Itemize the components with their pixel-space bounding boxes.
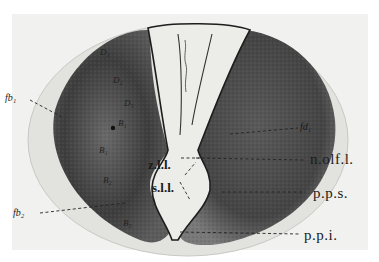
label-D3: D₃	[124, 99, 134, 108]
label-fb2: fb₂	[13, 208, 24, 218]
label-fd1: fd₁	[300, 122, 311, 132]
label-pps: p.p.s.	[313, 186, 348, 201]
label-ppi: p.p.i.	[304, 228, 337, 243]
label-zll: z.l.l.	[148, 158, 171, 171]
label-fb1: fb₁	[5, 93, 16, 103]
label-sll: s.l.l.	[152, 181, 174, 194]
label-B3: B₃	[123, 219, 132, 228]
label-D2: D₂	[113, 76, 123, 85]
brain-section-illustration	[0, 0, 379, 262]
label-B1-lower: B₁	[99, 146, 108, 155]
label-n-olf-l: n.olf.l.	[310, 152, 354, 167]
label-D1: D₁	[100, 48, 110, 57]
label-B2: B₂	[103, 176, 112, 185]
label-B1: B₁	[118, 119, 127, 128]
